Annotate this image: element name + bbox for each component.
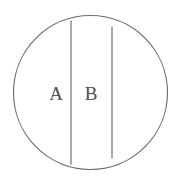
figure-canvas: A B: [0, 0, 180, 181]
label-b: B: [85, 83, 98, 104]
circle-chord-diagram: A B: [0, 0, 180, 181]
label-a: A: [49, 83, 63, 104]
